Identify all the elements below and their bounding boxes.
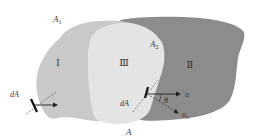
boundary-a-label: A [125, 127, 132, 137]
boundary-a1-label: A1 [52, 14, 62, 25]
control-volume-diagram: I Ⅲ Ⅱ A1 A2 A dA dA u θ un [0, 0, 255, 140]
region-i-label: I [56, 57, 59, 68]
theta-label: θ [164, 96, 168, 105]
right-da-label: dA [120, 99, 129, 108]
velocity-u-label: u [185, 90, 189, 99]
left-da-label: dA [10, 90, 19, 99]
region-iii-label: Ⅲ [119, 57, 129, 68]
region-ii-label: Ⅱ [187, 59, 194, 70]
